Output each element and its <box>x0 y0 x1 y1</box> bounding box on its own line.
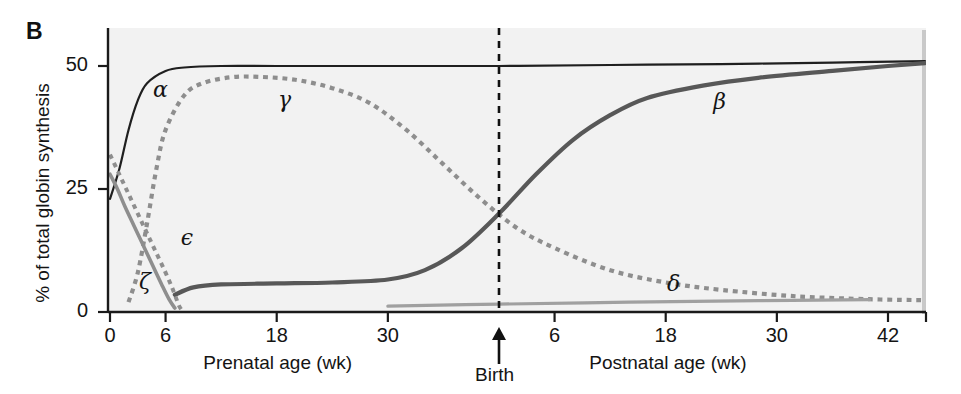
y-tick-50: 50 <box>42 53 88 76</box>
x-tick-postnatal-6: 6 <box>532 324 578 347</box>
curve-label-delta: δ <box>667 271 680 296</box>
x-tick-prenatal-18: 18 <box>254 324 300 347</box>
curve-label-epsilon: ϵ <box>181 225 193 250</box>
x-tick-prenatal-30: 30 <box>365 324 411 347</box>
birth-marker-label: Birth <box>475 364 514 386</box>
birth-arrow-icon <box>492 327 506 340</box>
curve-label-zeta: ζ <box>139 269 151 294</box>
curve-label-alpha: α <box>153 77 168 102</box>
plot-background <box>108 28 926 314</box>
globin-synthesis-figure: B % of total globin synthesis 02550 0618… <box>0 0 961 394</box>
prenatal-axis-caption: Prenatal age (wk) <box>203 352 352 374</box>
curve-label-beta: β <box>713 89 726 114</box>
x-tick-postnatal-30: 30 <box>754 324 800 347</box>
x-tick-postnatal-18: 18 <box>643 324 689 347</box>
x-tick-prenatal-6: 6 <box>143 324 189 347</box>
panel-label: B <box>26 18 43 45</box>
y-tick-0: 0 <box>42 299 88 322</box>
postnatal-axis-caption: Postnatal age (wk) <box>589 352 746 374</box>
y-tick-25: 25 <box>42 176 88 199</box>
x-tick-prenatal-0: 0 <box>87 324 133 347</box>
x-tick-postnatal-42: 42 <box>865 324 911 347</box>
curve-label-gamma: γ <box>278 87 291 112</box>
plot-area <box>108 28 926 312</box>
